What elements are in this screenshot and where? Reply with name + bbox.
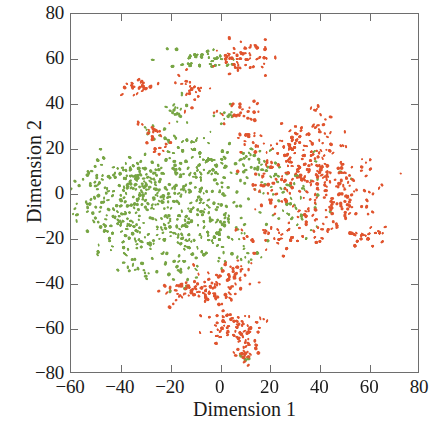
- y-axis-tick-label: 60: [45, 47, 64, 69]
- x-axis-tick: [121, 14, 122, 21]
- y-axis-tick: [411, 284, 418, 285]
- y-axis-tick: [411, 239, 418, 240]
- y-axis-tick: [411, 149, 418, 150]
- x-axis-tick-label: −40: [105, 376, 134, 398]
- x-axis-title: Dimension 1: [70, 398, 419, 421]
- y-axis-tick-label: −40: [35, 272, 64, 294]
- scatter-plot-figure: −80−60−40−20020406080 −60−40−20020406080…: [0, 0, 435, 422]
- x-axis-tick: [370, 14, 371, 21]
- plot-area: [70, 13, 419, 373]
- y-axis-tick-label: 0: [55, 182, 64, 204]
- y-axis-tick: [411, 194, 418, 195]
- data-points-layer: [71, 14, 418, 372]
- x-axis-tick: [270, 365, 271, 372]
- y-axis-tick-label: −60: [35, 317, 64, 339]
- x-axis-tick-label: 20: [260, 376, 279, 398]
- x-axis-tick: [221, 14, 222, 21]
- y-axis-tick: [411, 59, 418, 60]
- x-axis-tick: [320, 14, 321, 21]
- x-axis-tick: [171, 14, 172, 21]
- y-axis-tick-label: 20: [45, 137, 64, 159]
- x-axis-tick: [221, 365, 222, 372]
- y-axis-tick-label: 40: [45, 92, 64, 114]
- x-axis-tick: [370, 365, 371, 372]
- y-axis-tick: [71, 194, 78, 195]
- y-axis-tick: [411, 104, 418, 105]
- x-axis-tick: [320, 365, 321, 372]
- x-axis-tick-label: 60: [360, 376, 379, 398]
- x-axis-tick: [171, 365, 172, 372]
- y-axis-tick: [71, 329, 78, 330]
- x-axis-tick-label: 40: [310, 376, 329, 398]
- y-axis-tick: [71, 149, 78, 150]
- y-axis-tick: [411, 329, 418, 330]
- x-axis-tick-label: −20: [155, 376, 184, 398]
- y-axis-tick: [71, 284, 78, 285]
- x-axis-tick-label: 80: [410, 376, 429, 398]
- x-axis-tick-label: 0: [215, 376, 224, 398]
- y-axis-tick: [71, 59, 78, 60]
- y-axis-title: Dimension 2: [23, 72, 46, 272]
- y-axis-tick: [71, 104, 78, 105]
- y-axis-tick-label: 80: [45, 2, 64, 24]
- x-axis-tick: [121, 365, 122, 372]
- x-axis-tick: [270, 14, 271, 21]
- x-axis-tick-label: −60: [55, 376, 84, 398]
- y-axis-tick: [71, 239, 78, 240]
